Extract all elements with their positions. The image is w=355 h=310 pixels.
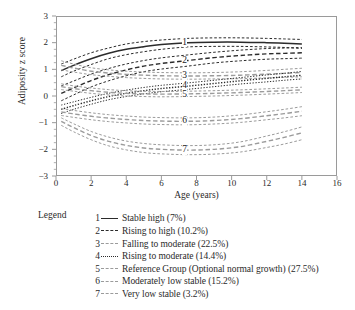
curve-label-2: 2 [182, 56, 188, 66]
legend-entry-4[interactable]: 4Rising to moderate (14.4%) [92, 246, 226, 258]
legend-entry-label: Very low stable (3.2%) [122, 289, 209, 299]
legend-entry-2[interactable]: 2Rising to high (10.2%) [92, 221, 208, 233]
curve-label-5: 5 [182, 90, 188, 100]
curve-label-3: 3 [182, 71, 188, 81]
legend-title: Legend [38, 210, 67, 220]
legend-entry-7[interactable]: 7Very low stable (3.2%) [92, 284, 209, 296]
trajectory-lines [0, 0, 355, 205]
legend-entry-5[interactable]: 5Reference Group (Optional normal growth… [92, 258, 319, 270]
figure-root: Adiposity z score Age (years) 3210−1−2−3… [0, 0, 355, 310]
legend-entry-3[interactable]: 3Falling to moderate (22.5%) [92, 233, 228, 245]
legend-entry-1[interactable]: 1Stable high (7%) [92, 208, 186, 220]
curve-label-7: 7 [182, 145, 188, 155]
curve-label-6: 6 [182, 116, 188, 126]
legend-entry-number: 7 [92, 289, 100, 299]
legend: Legend 1Stable high (7%)2Rising to high … [0, 206, 355, 310]
curve-label-1: 1 [182, 38, 188, 48]
legend-entry-6[interactable]: 6Moderately low stable (15.2%) [92, 271, 239, 283]
legend-line-sample-icon [101, 289, 118, 298]
chart-area: Adiposity z score Age (years) 3210−1−2−3… [0, 0, 355, 205]
